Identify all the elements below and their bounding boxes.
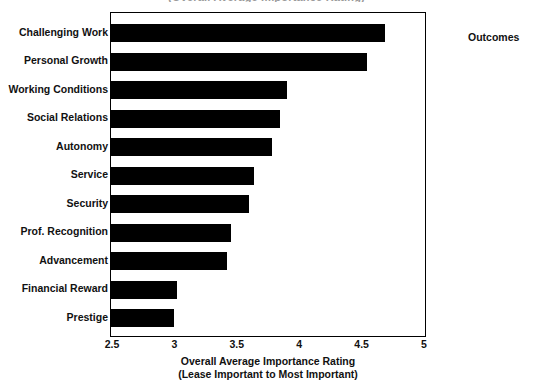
bar-row bbox=[111, 110, 425, 128]
outcomes-legend-label: Outcomes bbox=[468, 31, 519, 43]
bar-advancement bbox=[111, 252, 227, 270]
category-label-service: Service bbox=[2, 169, 108, 180]
bar-row bbox=[111, 81, 425, 99]
x-axis-tick-labels: 2.533.544.55 bbox=[0, 338, 533, 354]
bar-working-conditions bbox=[111, 81, 287, 99]
bar-financial-reward bbox=[111, 281, 177, 299]
x-axis-title-line2: (Lease Important to Most Important) bbox=[110, 368, 426, 381]
category-label-challenging-work: Challenging Work bbox=[2, 27, 108, 38]
x-tick-3-5: 3.5 bbox=[229, 338, 244, 350]
x-axis-title: Overall Average Importance Rating (Lease… bbox=[110, 355, 426, 381]
bar-row bbox=[111, 309, 425, 327]
bar-chart-figure: (Overall Average Importance Rating) Chal… bbox=[0, 0, 533, 391]
category-axis-labels: Challenging WorkPersonal GrowthWorking C… bbox=[0, 12, 108, 337]
bar-challenging-work bbox=[111, 24, 385, 42]
bar-personal-growth bbox=[111, 53, 367, 71]
bar-row bbox=[111, 138, 425, 156]
bar-row bbox=[111, 24, 425, 42]
category-label-advancement: Advancement bbox=[2, 255, 108, 266]
plot-area bbox=[110, 12, 426, 337]
x-tick-3: 3 bbox=[171, 338, 177, 350]
x-axis-title-line1: Overall Average Importance Rating bbox=[110, 355, 426, 368]
category-label-prof-recognition: Prof. Recognition bbox=[2, 226, 108, 237]
category-label-personal-growth: Personal Growth bbox=[2, 55, 108, 66]
bar-social-relations bbox=[111, 110, 280, 128]
category-label-working-conditions: Working Conditions bbox=[2, 84, 108, 95]
bar-row bbox=[111, 167, 425, 185]
bar-row bbox=[111, 224, 425, 242]
x-tick-4-5: 4.5 bbox=[354, 338, 369, 350]
x-tick-5: 5 bbox=[421, 338, 427, 350]
bar-security bbox=[111, 195, 249, 213]
bar-row bbox=[111, 281, 425, 299]
bar-row bbox=[111, 252, 425, 270]
bar-service bbox=[111, 167, 254, 185]
bar-autonomy bbox=[111, 138, 272, 156]
category-label-autonomy: Autonomy bbox=[2, 141, 108, 152]
bar-prestige bbox=[111, 309, 174, 327]
x-tick-2-5: 2.5 bbox=[105, 338, 120, 350]
category-label-security: Security bbox=[2, 198, 108, 209]
bar-prof-recognition bbox=[111, 224, 231, 242]
bar-row bbox=[111, 195, 425, 213]
category-label-social-relations: Social Relations bbox=[2, 112, 108, 123]
chart-title: (Overall Average Importance Rating) bbox=[0, 0, 533, 2]
category-label-prestige: Prestige bbox=[2, 312, 108, 323]
bar-row bbox=[111, 53, 425, 71]
x-tick-4: 4 bbox=[296, 338, 302, 350]
category-label-financial-reward: Financial Reward bbox=[2, 283, 108, 294]
